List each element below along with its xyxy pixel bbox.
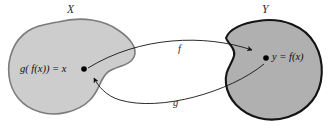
domain-point-dot: [81, 66, 87, 72]
arrow-f-label: f: [178, 44, 181, 55]
codomain-point-label: y = f(x): [272, 52, 304, 63]
set-y-blob: [226, 20, 322, 120]
mapping-diagram-figure: X Y g( f(x)) = x y = f(x) f g: [0, 0, 334, 131]
set-label-y: Y: [262, 4, 268, 16]
set-label-x: X: [67, 4, 74, 16]
domain-point-label: g( f(x)) = x: [20, 64, 66, 75]
arrow-g-label: g: [173, 98, 178, 109]
codomain-point-dot: [263, 55, 269, 61]
